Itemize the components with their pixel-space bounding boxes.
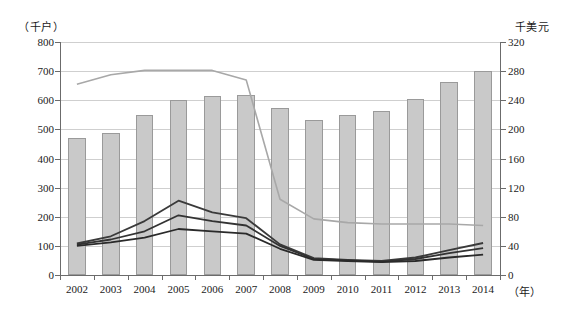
x-axis-tick-label: 2011 [371, 283, 393, 295]
right-axis-tick-mark [500, 71, 506, 72]
left-axis-tick-label: 600 [10, 94, 54, 106]
x-axis-tick-mark [60, 275, 61, 280]
left-axis-tick-label: 300 [10, 182, 54, 194]
right-axis-tick-mark [500, 217, 506, 218]
left-axis-tick-label: 800 [10, 36, 54, 48]
x-axis-tick-mark [331, 275, 332, 280]
right-axis-tick-label: 160 [508, 153, 552, 165]
left-axis-tick-label: 400 [10, 153, 54, 165]
line-gray-line [77, 70, 483, 225]
x-axis-tick-label: 2002 [66, 283, 88, 295]
left-axis-tick-label: 100 [10, 240, 54, 252]
x-axis-tick-mark [263, 275, 264, 280]
x-axis-tick-label: 2010 [337, 283, 359, 295]
x-axis-tick-mark [162, 275, 163, 280]
x-axis-tick-mark [195, 275, 196, 280]
x-axis-tick-mark [365, 275, 366, 280]
x-axis-tick-label: 2003 [100, 283, 122, 295]
right-axis-tick-label: 80 [508, 211, 552, 223]
x-axis-tick-label: 2007 [235, 283, 257, 295]
left-axis-unit-label: （千户） [18, 18, 64, 34]
x-axis-unit-label: （年） [508, 283, 541, 299]
x-axis-tick-mark [432, 275, 433, 280]
x-axis-line [60, 275, 501, 276]
right-axis-tick-mark [500, 188, 506, 189]
x-axis-tick-mark [398, 275, 399, 280]
right-axis-tick-mark [500, 129, 506, 130]
right-axis-tick-mark [500, 42, 506, 43]
x-axis-tick-label: 2006 [201, 283, 223, 295]
line-dark-line-1 [77, 201, 483, 261]
x-axis-tick-label: 2014 [472, 283, 494, 295]
right-axis-tick-mark [500, 246, 506, 247]
left-axis-tick-label: 700 [10, 65, 54, 77]
x-axis-tick-mark [94, 275, 95, 280]
x-axis-tick-label: 2005 [167, 283, 189, 295]
right-axis-tick-label: 320 [508, 36, 552, 48]
x-axis-tick-label: 2009 [303, 283, 325, 295]
right-axis-unit-label: 千美元 [515, 18, 550, 34]
right-axis-tick-label: 200 [508, 123, 552, 135]
right-axis-tick-mark [500, 159, 506, 160]
x-axis-tick-label: 2004 [134, 283, 156, 295]
x-axis-tick-label: 2012 [404, 283, 426, 295]
right-axis-tick-label: 40 [508, 240, 552, 252]
right-axis-tick-label: 240 [508, 94, 552, 106]
left-axis-tick-label: 500 [10, 123, 54, 135]
x-axis-tick-mark [500, 275, 501, 280]
right-axis-tick-label: 0 [508, 269, 552, 281]
right-axis-tick-mark [500, 100, 506, 101]
right-axis-tick-label: 280 [508, 65, 552, 77]
left-axis-tick-label: 0 [10, 269, 54, 281]
x-axis-tick-mark [128, 275, 129, 280]
left-axis-tick-label: 200 [10, 211, 54, 223]
x-axis-tick-mark [297, 275, 298, 280]
line-series [60, 42, 500, 275]
x-axis-tick-label: 2013 [438, 283, 460, 295]
x-axis-tick-mark [229, 275, 230, 280]
chart-container: （千户） 千美元 0100200300400500600700800 04080… [0, 0, 565, 325]
right-axis-tick-label: 120 [508, 182, 552, 194]
x-axis-tick-mark [466, 275, 467, 280]
x-axis-labels: 2002200320042005200620072008200920102011… [60, 280, 500, 304]
x-axis-tick-label: 2008 [269, 283, 291, 295]
